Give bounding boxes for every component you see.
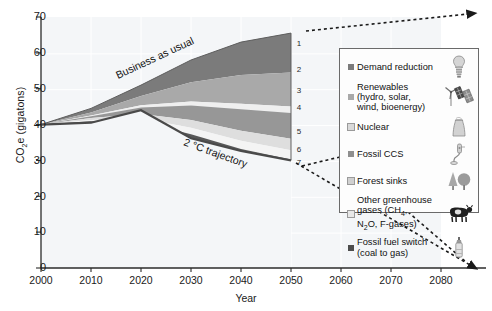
legend-label-renewables: Renewables (hydro, solar, wind, bioenerg…	[357, 82, 444, 113]
chart-legend: Demand reduction Renewables (hydro, sola	[339, 48, 479, 213]
legend-label-nuclear: Nuclear	[357, 122, 444, 132]
legend-item-demand-reduction[interactable]: Demand reduction	[344, 54, 474, 80]
legend-key-3	[344, 123, 357, 131]
lightbulb-icon	[444, 54, 474, 80]
legend-item-nuclear[interactable]: Nuclear	[344, 114, 474, 140]
legend-fossil-switch-line2: (coal to gas)	[357, 248, 408, 258]
band-label-1: 1	[297, 39, 302, 48]
legend-renewables-line1: Renewables	[357, 82, 408, 92]
ytick-10: 10	[6, 226, 46, 237]
band-label-7: 7	[297, 158, 302, 167]
ytick-20: 20	[6, 191, 46, 202]
legend-item-other-ghg[interactable]: Other greenhouse gases (CH4, N2O, F-gase…	[344, 195, 474, 234]
xtick-2050: 2050	[268, 274, 314, 286]
band-label-4: 4	[297, 103, 302, 112]
cow-icon	[444, 201, 474, 227]
band-label-3: 3	[297, 86, 302, 95]
xtick-2070: 2070	[368, 274, 414, 286]
xtick-2010: 2010	[68, 274, 114, 286]
cooling-tower-icon	[444, 114, 474, 140]
xtick-2030: 2030	[168, 274, 214, 286]
legend-item-renewables[interactable]: Renewables (hydro, solar, wind, bioenerg…	[344, 81, 474, 113]
carbon-capture-icon	[444, 141, 474, 167]
legend-key-2	[344, 94, 357, 100]
band-label-2: 2	[297, 65, 302, 74]
legend-key-7	[344, 245, 357, 251]
legend-key-6	[344, 210, 357, 218]
legend-other-ghg-line3: N2O, F-gases)	[357, 219, 417, 229]
legend-other-ghg-line2: gases (CH4,	[357, 205, 407, 215]
ytick-70: 70	[6, 11, 46, 22]
ytick-60: 60	[6, 47, 46, 58]
xtick-2080: 2080	[418, 274, 464, 286]
chart-figure: 1 2 3 4 5 6 7 Business as usual 2 °C tra…	[0, 0, 492, 311]
xtick-2040: 2040	[218, 274, 264, 286]
gas-canister-icon	[444, 235, 474, 261]
xtick-2000: 2000	[18, 274, 64, 286]
band-label-5: 5	[297, 127, 302, 136]
legend-label-forest-sinks: Forest sinks	[357, 176, 444, 186]
legend-key-1	[344, 64, 357, 70]
trees-icon	[444, 168, 474, 194]
legend-label-other-ghg: Other greenhouse gases (CH4, N2O, F-gase…	[357, 195, 444, 234]
xtick-2020: 2020	[118, 274, 164, 286]
legend-other-ghg-line1: Other greenhouse	[357, 195, 432, 205]
y-axis-title: CO2e (gigatons)	[14, 60, 28, 190]
legend-item-forest-sinks[interactable]: Forest sinks	[344, 168, 474, 194]
legend-label-fossil-fuel-switch: Fossil fuel switch (coal to gas)	[357, 237, 444, 258]
legend-key-5	[344, 177, 357, 185]
legend-item-fossil-fuel-switch[interactable]: Fossil fuel switch (coal to gas)	[344, 235, 474, 261]
legend-item-fossil-ccs[interactable]: Fossil CCS	[344, 141, 474, 167]
band-label-6: 6	[297, 145, 302, 154]
legend-renewables-line3: wind, bioenergy)	[357, 102, 425, 112]
legend-label-demand-reduction: Demand reduction	[357, 62, 444, 72]
legend-fossil-switch-line1: Fossil fuel switch	[357, 237, 427, 247]
wind-turbine-solar-icon	[444, 84, 474, 110]
legend-key-4	[344, 151, 357, 157]
x-axis-title: Year	[0, 292, 492, 304]
legend-label-fossil-ccs: Fossil CCS	[357, 149, 444, 159]
ytick-0: 0	[6, 262, 46, 273]
xtick-2060: 2060	[318, 274, 364, 286]
legend-renewables-line2: (hydro, solar,	[357, 92, 411, 102]
